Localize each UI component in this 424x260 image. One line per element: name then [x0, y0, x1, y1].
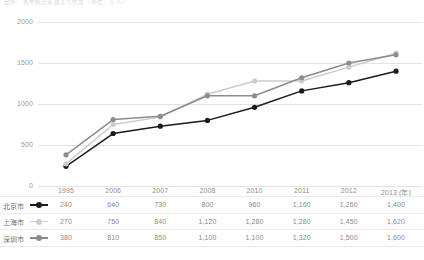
data-table: 北京市2406407308009601,1601,2601,400上海市2707…	[0, 196, 424, 247]
data-point	[205, 118, 210, 123]
line-上海市	[66, 53, 396, 164]
data-point	[346, 80, 351, 85]
data-point	[252, 78, 257, 83]
data-point	[393, 52, 398, 57]
table-row: 上海市2707508401,1201,2801,2801,4501,620	[0, 213, 424, 230]
table-row: 深圳市3808108501,1001,1001,3201,5001,600	[0, 229, 424, 247]
legend-label-上海市: 上海市	[3, 217, 25, 227]
line-深圳市	[66, 55, 396, 155]
legend-label-北京市: 北京市	[3, 201, 25, 211]
figure-source-note: 出所：各市統計年鑑より作成（単位：万人）	[4, 0, 128, 6]
table-cell: 1,620	[368, 218, 424, 225]
chart-figure: 出所：各市統計年鑑より作成（単位：万人） 0500100015002000 19…	[0, 0, 424, 260]
data-point	[252, 93, 257, 98]
data-point	[63, 161, 68, 166]
legend-label-深圳市: 深圳市	[3, 234, 25, 244]
data-point	[299, 88, 304, 93]
data-point	[205, 93, 210, 98]
data-point	[111, 122, 116, 127]
table-cell: 1,400	[368, 201, 424, 208]
data-point	[158, 114, 163, 119]
data-point	[393, 69, 398, 74]
series-lines	[0, 22, 424, 186]
data-point	[111, 117, 116, 122]
data-point	[158, 124, 163, 129]
plot-area: 0500100015002000	[0, 22, 424, 186]
data-point	[346, 60, 351, 65]
data-point	[111, 131, 116, 136]
table-row: 北京市2406407308009601,1601,2601,400	[0, 196, 424, 213]
data-point	[63, 152, 68, 157]
data-point	[299, 75, 304, 80]
table-cell: 1,600	[368, 234, 424, 241]
data-point	[252, 105, 257, 110]
